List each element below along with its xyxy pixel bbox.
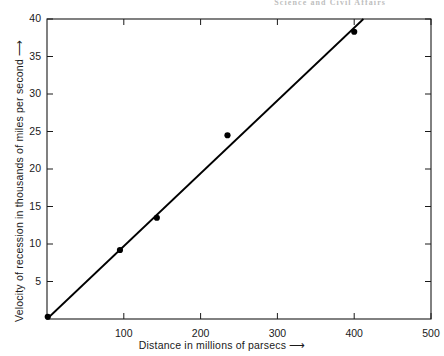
data-point: [117, 247, 123, 253]
y-axis-arrow-icon: ⟶: [13, 40, 25, 59]
hubble-law-chart: 510152025303540 100200300400500 Distance…: [0, 0, 444, 356]
axis-ticks: [47, 19, 431, 319]
data-point: [351, 29, 357, 35]
x-axis-tick-label: 200: [181, 327, 221, 339]
data-point: [154, 215, 160, 221]
y-axis-title-text: Velocity of recession in thousands of mi…: [13, 59, 25, 322]
x-axis-arrow-icon: ⟶: [286, 339, 305, 351]
data-point: [45, 314, 51, 320]
x-axis-title: Distance in millions of parsecs⟶: [0, 339, 444, 351]
x-axis-tick-label: 300: [257, 327, 297, 339]
x-axis-tick-label: 500: [411, 327, 444, 339]
plot-frame: [47, 19, 431, 319]
plot-canvas: [0, 0, 444, 356]
x-axis-tick-label: 100: [104, 327, 144, 339]
data-point: [224, 132, 230, 138]
x-axis-title-text: Distance in millions of parsecs: [139, 339, 286, 351]
x-axis-tick-label: 400: [334, 327, 374, 339]
y-axis-title: Velocity of recession in thousands of mi…: [13, 21, 25, 341]
trend-line: [47, 19, 363, 319]
data-series: [45, 19, 364, 320]
